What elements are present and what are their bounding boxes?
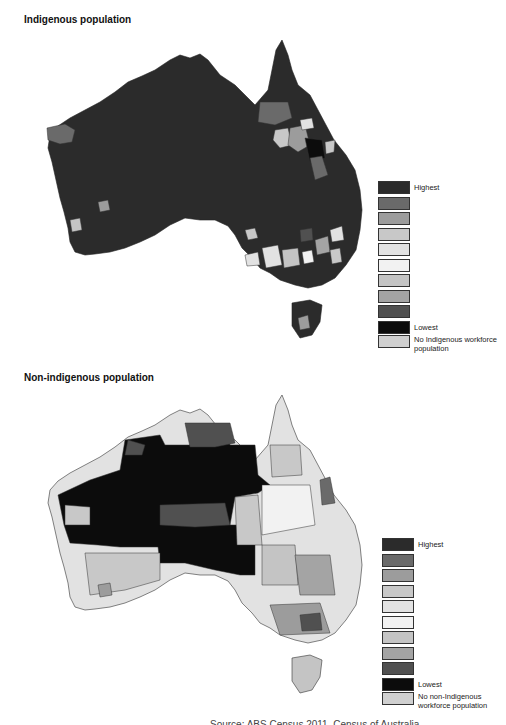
legend-label: Lowest bbox=[418, 680, 442, 689]
australia-map-indigenous bbox=[30, 30, 370, 350]
legend-item: Lowest bbox=[382, 677, 506, 693]
legend-non-indigenous: Highest Lowest No non-Indigenous workfor… bbox=[382, 537, 506, 714]
source-text: Source: ABS Census 2011, Census of Austr… bbox=[210, 719, 419, 725]
legend-swatch bbox=[382, 538, 414, 551]
legend-swatch bbox=[378, 243, 410, 256]
legend-item bbox=[382, 553, 506, 569]
legend-label: Lowest bbox=[414, 323, 438, 332]
tasmania-shape bbox=[292, 655, 322, 693]
legend-swatch bbox=[382, 647, 414, 660]
legend-swatch bbox=[378, 305, 410, 318]
legend-swatch bbox=[378, 335, 410, 348]
legend-item bbox=[378, 304, 504, 320]
legend-item: Highest bbox=[382, 537, 506, 553]
legend-indigenous: Highest Lowest No Indigenous workforce p… bbox=[378, 180, 504, 357]
legend-item bbox=[382, 646, 506, 662]
legend-swatch bbox=[382, 600, 414, 613]
legend-item bbox=[378, 227, 504, 243]
australia-map-non-indigenous bbox=[30, 385, 370, 705]
legend-item bbox=[382, 630, 506, 646]
legend-swatch bbox=[378, 259, 410, 272]
legend-item bbox=[378, 242, 504, 258]
legend-swatch bbox=[382, 678, 414, 691]
legend-swatch bbox=[382, 554, 414, 567]
legend-swatch bbox=[382, 692, 414, 705]
legend-label: Highest bbox=[414, 183, 439, 192]
legend-item bbox=[382, 568, 506, 584]
legend-label: No Indigenous workforce population bbox=[414, 335, 504, 353]
legend-item: Highest bbox=[378, 180, 504, 196]
legend-item bbox=[382, 615, 506, 631]
legend-item bbox=[378, 258, 504, 274]
legend-swatch bbox=[378, 228, 410, 241]
panel-title: Non-indigenous population bbox=[24, 372, 154, 383]
legend-swatch bbox=[378, 321, 410, 334]
legend-item bbox=[378, 289, 504, 305]
legend-label: No non-Indigenous workforce population bbox=[418, 692, 506, 710]
legend-item bbox=[382, 599, 506, 615]
legend-swatch bbox=[378, 290, 410, 303]
legend-swatch bbox=[382, 569, 414, 582]
legend-label: Highest bbox=[418, 540, 443, 549]
panel-title: Indigenous population bbox=[24, 14, 131, 25]
legend-swatch bbox=[382, 662, 414, 675]
legend-swatch bbox=[382, 585, 414, 598]
legend-item bbox=[378, 211, 504, 227]
indigenous-panel: Indigenous population bbox=[0, 0, 506, 360]
legend-swatch bbox=[378, 197, 410, 210]
legend-item bbox=[378, 273, 504, 289]
legend-swatch bbox=[382, 631, 414, 644]
legend-swatch bbox=[378, 181, 410, 194]
legend-item: No non-Indigenous workforce population bbox=[382, 692, 506, 714]
legend-item: No Indigenous workforce population bbox=[378, 335, 504, 357]
legend-item bbox=[382, 661, 506, 677]
legend-swatch bbox=[378, 212, 410, 225]
legend-item: Lowest bbox=[378, 320, 504, 336]
legend-swatch bbox=[382, 616, 414, 629]
legend-item bbox=[378, 196, 504, 212]
legend-item bbox=[382, 584, 506, 600]
source-caption: Source: ABS Census 2011, Census of Austr… bbox=[0, 719, 506, 725]
non-indigenous-panel: Non-indigenous population Highest bbox=[0, 360, 506, 720]
legend-swatch bbox=[378, 274, 410, 287]
